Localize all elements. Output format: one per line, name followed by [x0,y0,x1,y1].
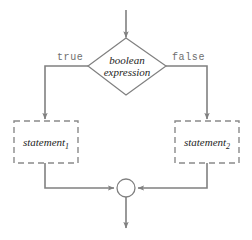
edge-true [45,66,88,119]
edge-label-false: false [172,52,205,63]
condition-label-line2: expression [104,66,151,78]
edge-label-true: true [57,52,83,63]
flowchart-canvas: boolean expression true false statement1… [0,0,252,240]
statement-1-label: statement1 [14,136,78,151]
edge-join-left [45,163,114,188]
statement-1-label-text: statement [23,136,65,148]
condition-label-line1: boolean [109,54,144,66]
statement-2-label: statement2 [175,136,239,151]
condition-label: boolean expression [95,54,159,78]
edge-false [166,66,207,119]
merge-circle-shape [117,179,135,197]
statement-2-label-text: statement [184,136,226,148]
flowchart-graphics [0,0,252,240]
statement-1-subscript: 1 [65,142,69,151]
edge-join-right [138,163,207,188]
statement-2-subscript: 2 [226,142,230,151]
